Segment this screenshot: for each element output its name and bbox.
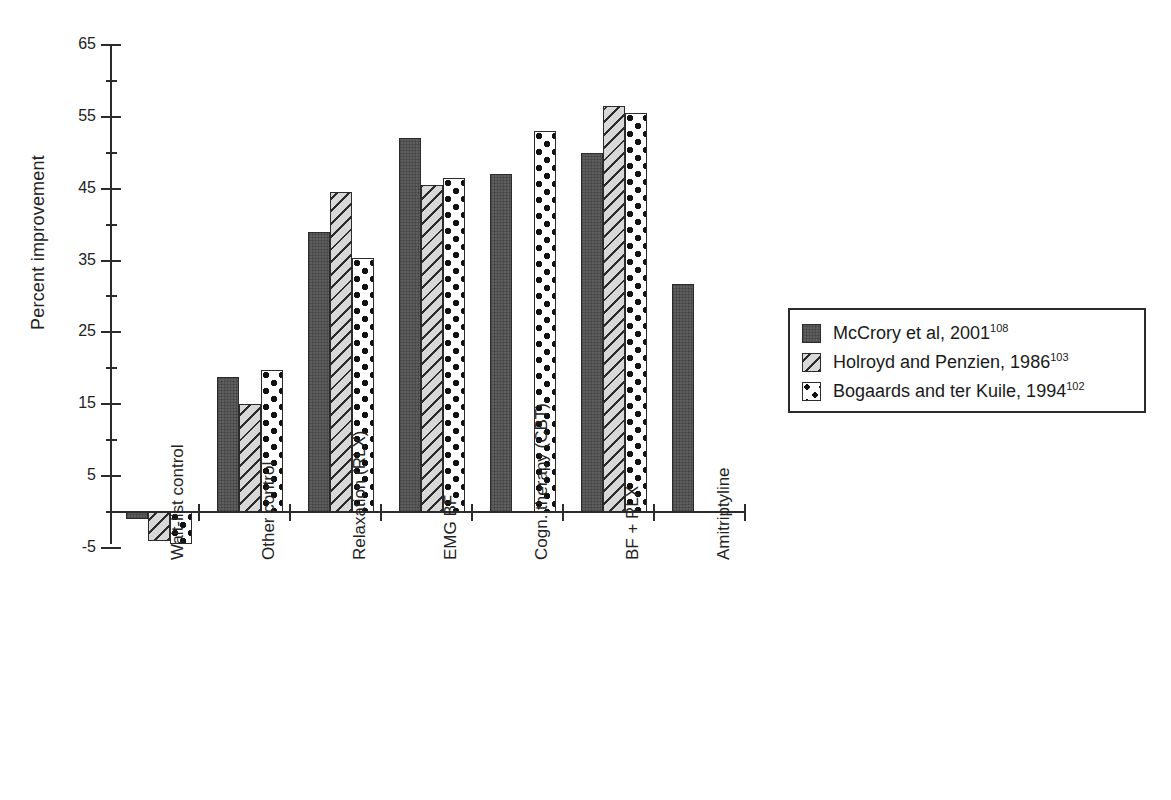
y-tick-minor — [106, 439, 117, 441]
x-tick — [289, 504, 291, 521]
y-tick-minor — [106, 80, 117, 82]
x-tick — [653, 504, 655, 521]
bar — [603, 106, 625, 512]
x-tick — [380, 504, 382, 521]
legend-item: Bogaards and ter Kuile, 1994102 — [802, 377, 1132, 406]
bar — [239, 404, 261, 512]
x-category-label: BF + RLX — [623, 486, 643, 560]
y-tick-major — [101, 331, 121, 333]
y-tick-label: 55 — [54, 107, 96, 125]
legend-label: Holroyd and Penzien, 1986103 — [833, 352, 1069, 373]
x-tick — [744, 504, 746, 521]
y-tick-label: -5 — [54, 538, 96, 556]
y-tick-major — [101, 188, 121, 190]
y-tick-label: 15 — [54, 394, 96, 412]
legend-reference-superscript: 103 — [1050, 351, 1068, 363]
x-category-label: Wait-list control — [168, 444, 188, 560]
x-tick — [562, 504, 564, 521]
legend-label: McCrory et al, 2001108 — [833, 323, 1008, 344]
bar — [625, 113, 647, 512]
legend-reference-superscript: 108 — [990, 322, 1008, 334]
y-tick-minor — [106, 295, 117, 297]
x-tick — [198, 504, 200, 521]
chart-canvas: Percent improvement -55152535455565 Wait… — [0, 0, 1171, 800]
x-category-label: Other control — [259, 462, 279, 560]
y-tick-major — [101, 403, 121, 405]
y-tick-major — [101, 475, 121, 477]
y-tick-minor — [106, 152, 117, 154]
x-tick — [471, 504, 473, 521]
legend-label: Bogaards and ter Kuile, 1994102 — [833, 381, 1085, 402]
y-axis-title: Percent improvement — [28, 133, 49, 353]
y-tick-label: 45 — [54, 179, 96, 197]
legend-swatch-dots-icon — [802, 382, 821, 401]
y-tick-major — [101, 116, 121, 118]
bar — [308, 232, 330, 512]
x-category-label: Relaxation (RLX) — [350, 431, 370, 560]
x-category-label: Cogn. therapy (CBT) — [532, 403, 552, 560]
y-tick-major — [101, 44, 121, 46]
y-tick-minor — [106, 367, 117, 369]
bar — [421, 185, 443, 512]
legend-item: McCrory et al, 2001108 — [802, 319, 1132, 348]
bar — [490, 174, 512, 512]
y-tick-label: 25 — [54, 322, 96, 340]
legend-swatch-solid-icon — [802, 324, 821, 343]
bar — [672, 284, 694, 512]
x-category-label: Amitriptyline — [714, 467, 734, 560]
bar — [330, 192, 352, 512]
bar — [443, 178, 465, 512]
y-tick-minor — [106, 224, 117, 226]
chart-legend: McCrory et al, 2001108Holroyd and Penzie… — [788, 308, 1146, 413]
x-category-label: EMG BF — [441, 495, 461, 560]
y-tick-major — [101, 260, 121, 262]
bar — [581, 153, 603, 512]
bar — [126, 512, 148, 519]
legend-item: Holroyd and Penzien, 1986103 — [802, 348, 1132, 377]
legend-reference-superscript: 102 — [1066, 380, 1084, 392]
y-tick-label: 5 — [54, 466, 96, 484]
y-tick-label: 35 — [54, 251, 96, 269]
y-tick-label: 65 — [54, 35, 96, 53]
bar — [217, 377, 239, 512]
bar — [148, 512, 170, 541]
y-tick-major — [101, 547, 121, 549]
legend-swatch-hatch-icon — [802, 353, 821, 372]
bar — [399, 138, 421, 512]
